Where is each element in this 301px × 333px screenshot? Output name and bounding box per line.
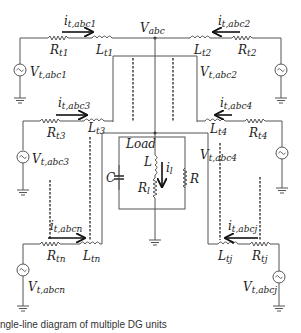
lt4-label: Lt4 xyxy=(209,122,228,137)
resistor-rt4-icon xyxy=(245,119,265,123)
inductor-ltn-icon xyxy=(80,242,100,244)
load-inductor-icon xyxy=(155,155,157,175)
load-ground-icon xyxy=(149,240,161,245)
ac-source-2-icon xyxy=(275,64,287,76)
lt1-label: Lt1 xyxy=(95,43,113,58)
ground-3-icon xyxy=(17,190,29,195)
load-parallel-resistor-label: R xyxy=(189,172,199,186)
load-current-label: il xyxy=(166,161,173,176)
circuit-diagram: it,abc1 Rt1 Lt1 Vt,abc1 it,abc2 Lt2 Rt2 … xyxy=(0,0,301,333)
resistor-rt1-icon xyxy=(48,36,68,40)
inductor-ltj-icon xyxy=(218,242,238,244)
vt4-label: Vt,abc4 xyxy=(200,148,237,163)
resistor-rt3-icon xyxy=(40,119,60,123)
load-series-resistor-icon xyxy=(153,178,157,198)
rt2-label: Rt2 xyxy=(237,43,257,58)
current-label-j: it,abcj xyxy=(228,219,257,234)
vt3-label: Vt,abc3 xyxy=(32,152,69,167)
current-label-4: it,abc4 xyxy=(220,96,252,111)
figure-caption: ngle-line diagram of multiple DG units xyxy=(0,319,167,330)
resistor-rt2-icon xyxy=(232,36,252,40)
load-inductor-label: L xyxy=(143,155,152,169)
rtn-label: Rtn xyxy=(46,249,66,264)
dg-unit-3: it,abc3 Rt3 Lt3 Vt,abc3 xyxy=(17,96,113,195)
current-label-2: it,abc2 xyxy=(218,14,250,29)
dg-unit-n: it,abcn Rtn Ltn Vt,abcn xyxy=(17,219,102,311)
rt1-label: Rt1 xyxy=(49,43,68,58)
current-label-n: it,abcn xyxy=(50,219,82,234)
vtj-label: Vt,abcj xyxy=(243,280,277,295)
ground-1-icon xyxy=(14,98,26,103)
vt2-label: Vt,abc2 xyxy=(200,65,237,80)
resistor-rtn-icon xyxy=(40,242,60,246)
rt3-label: Rt3 xyxy=(46,126,66,141)
load-title: Load xyxy=(125,137,156,151)
vt1-label: Vt,abc1 xyxy=(30,65,67,80)
ground-n-icon xyxy=(17,306,29,311)
current-label-3: it,abc3 xyxy=(58,96,90,111)
current-label-1: it,abc1 xyxy=(64,14,96,29)
ac-source-3-icon xyxy=(17,151,29,163)
ground-4-icon xyxy=(276,188,288,193)
bus-voltage-label: Vabc xyxy=(140,21,165,36)
load-series-resistor-label: Rl xyxy=(137,181,150,196)
inductor-lt4-icon xyxy=(205,119,225,121)
ac-source-4-icon xyxy=(276,147,288,159)
lt3-label: Lt3 xyxy=(87,121,106,136)
ac-source-1-icon xyxy=(14,64,26,76)
dg-unit-1: it,abc1 Rt1 Lt1 Vt,abc1 xyxy=(14,14,150,103)
ac-source-n-icon xyxy=(17,264,29,276)
rtj-label: Rtj xyxy=(251,249,268,264)
ltn-label: Ltn xyxy=(82,249,101,264)
load-capacitor-label: C xyxy=(106,171,115,185)
dg-unit-4: it,abc4 Lt4 Rt4 Vt,abc4 xyxy=(197,96,288,193)
rt4-label: Rt4 xyxy=(248,126,268,141)
ground-2-icon xyxy=(275,98,287,103)
load-block: Load L Rl il C R xyxy=(106,133,199,245)
inductor-lt2-icon xyxy=(190,36,210,38)
ltj-label: Ltj xyxy=(217,249,233,264)
ac-source-j-icon xyxy=(273,271,285,283)
resistor-rtj-icon xyxy=(250,242,270,246)
vtn-label: Vt,abcn xyxy=(28,280,65,295)
inductor-lt1-icon xyxy=(92,36,112,38)
dg-unit-2: it,abc2 Lt2 Rt2 Vt,abc2 xyxy=(150,14,287,103)
ground-j-icon xyxy=(273,306,285,311)
